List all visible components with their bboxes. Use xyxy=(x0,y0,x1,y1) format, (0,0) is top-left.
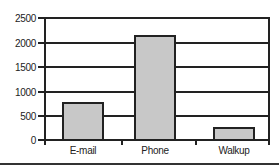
x-label-email: E-mail xyxy=(53,145,113,156)
bar-chart: 2500 2000 1500 1000 500 0 E-mail Phone W… xyxy=(0,0,279,168)
y-tick-label: 2500 xyxy=(15,13,36,24)
x-axis xyxy=(38,139,270,141)
y-tick xyxy=(38,91,44,93)
x-tick xyxy=(44,140,46,145)
bar-phone xyxy=(134,35,176,141)
y-tick-label: 1500 xyxy=(15,62,36,73)
x-tick xyxy=(268,140,270,145)
y-tick xyxy=(38,115,44,117)
gridline-2500 xyxy=(46,17,268,19)
y-tick-label: 1000 xyxy=(15,87,36,98)
divider xyxy=(0,163,279,165)
y-tick-label: 2000 xyxy=(15,38,36,49)
y-tick-label: 0 xyxy=(31,135,36,146)
x-label-phone: Phone xyxy=(125,145,185,156)
bar-email xyxy=(62,102,104,141)
y-tick xyxy=(38,17,44,19)
x-tick xyxy=(121,140,123,145)
y-tick xyxy=(38,42,44,44)
x-tick xyxy=(195,140,197,145)
x-label-walkup: Walkup xyxy=(204,145,264,156)
y-tick xyxy=(38,66,44,68)
y-tick-label: 500 xyxy=(20,111,36,122)
